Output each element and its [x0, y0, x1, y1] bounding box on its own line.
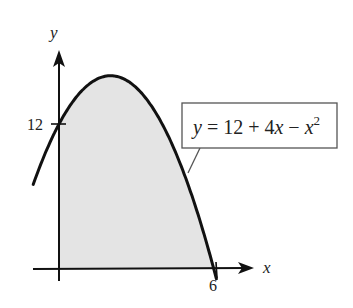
y-axis-label: y [48, 23, 58, 42]
diagram-canvas: y x 12 6 y = 12 + 4x − x2 [0, 0, 353, 308]
equation-label: y = 12 + 4x − x2 [191, 113, 320, 139]
y-tick-label-12: 12 [27, 116, 43, 133]
callout-leader-line [188, 148, 200, 173]
x-tick-label-6: 6 [209, 277, 217, 294]
x-axis-label: x [262, 258, 271, 277]
